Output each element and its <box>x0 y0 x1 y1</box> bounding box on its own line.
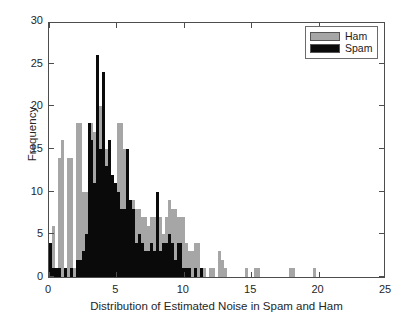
x-tick <box>49 23 50 28</box>
chart-legend: Ham Spam <box>305 26 378 59</box>
histogram-bar-ham <box>61 140 64 277</box>
y-tick <box>49 148 54 149</box>
y-tick <box>379 191 384 192</box>
x-tick-label: 5 <box>100 283 130 295</box>
histogram-bar-ham <box>245 268 248 277</box>
histogram-figure: 0510152025 051015202530 Distribution of … <box>0 0 406 325</box>
x-axis-label: Distribution of Estimated Noise in Spam … <box>48 300 385 312</box>
histogram-bar-spam <box>70 268 73 277</box>
histogram-bar-ham <box>70 158 73 277</box>
x-tick <box>184 23 185 28</box>
histogram-bar-spam <box>64 268 67 277</box>
x-tick <box>319 272 320 277</box>
histogram-bar-ham <box>257 268 260 277</box>
x-tick-label: 0 <box>33 283 63 295</box>
histogram-bar-ham <box>224 268 227 277</box>
y-tick <box>379 148 384 149</box>
histogram-bar-ham <box>212 268 215 277</box>
y-tick <box>379 105 384 106</box>
y-tick-label: 0 <box>13 270 43 282</box>
histogram-bar-ham <box>313 268 316 277</box>
histogram-bar-spam <box>200 268 203 277</box>
y-tick <box>379 233 384 234</box>
y-tick <box>379 276 384 277</box>
histogram-bar-spam <box>58 268 61 277</box>
legend-swatch-ham-icon <box>310 32 340 41</box>
y-axis-label: Frequency <box>26 54 38 214</box>
histogram-bar-spam <box>194 268 197 277</box>
x-tick <box>184 272 185 277</box>
y-tick <box>49 276 54 277</box>
legend-label-spam: Spam <box>345 43 372 54</box>
x-tick <box>116 272 117 277</box>
y-tick <box>379 63 384 64</box>
legend-item-spam: Spam <box>310 43 373 54</box>
histogram-bars <box>49 23 384 277</box>
y-tick <box>49 105 54 106</box>
x-tick-label: 15 <box>235 283 265 295</box>
x-tick <box>116 23 117 28</box>
x-tick-label: 20 <box>303 283 333 295</box>
histogram-bar-ham <box>203 268 206 277</box>
x-tick <box>251 23 252 28</box>
histogram-bar-spam <box>188 268 191 277</box>
legend-swatch-spam-icon <box>310 44 340 53</box>
x-tick-label: 25 <box>370 283 400 295</box>
x-tick-label: 10 <box>168 283 198 295</box>
y-tick <box>49 63 54 64</box>
y-tick-label: 30 <box>13 14 43 26</box>
y-tick <box>49 191 54 192</box>
histogram-bar-ham <box>292 268 295 277</box>
plot-area <box>48 22 385 278</box>
y-tick-label: 5 <box>13 227 43 239</box>
x-tick <box>251 272 252 277</box>
legend-label-ham: Ham <box>345 31 367 42</box>
y-tick <box>49 233 54 234</box>
legend-item-ham: Ham <box>310 31 373 42</box>
